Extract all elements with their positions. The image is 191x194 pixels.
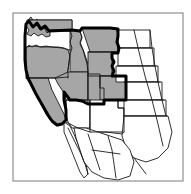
region-oklahoma [124,100,166,116]
region-north-dakota [118,30,150,48]
map-canvas [0,0,191,194]
region-wyoming [88,52,112,76]
region-nebraska [116,66,158,82]
region-south-dakota [118,48,154,66]
region-kansas [126,82,162,100]
region-oregon [26,45,70,78]
range-map-figure: Distribution map of the western United S… [0,0,191,194]
